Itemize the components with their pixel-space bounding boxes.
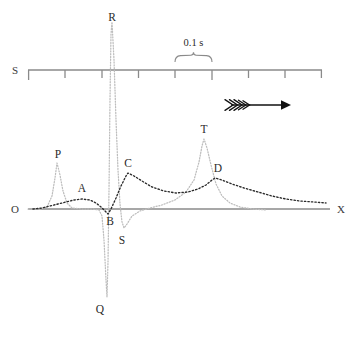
label-p: P xyxy=(55,148,61,160)
label-a: A xyxy=(78,182,87,194)
label-c: C xyxy=(124,157,132,169)
time-scale-group xyxy=(28,70,322,80)
right-arrow-icon xyxy=(225,100,291,111)
label-r: R xyxy=(108,11,116,23)
duration-brace xyxy=(175,52,212,62)
x-axis-label: X xyxy=(337,203,345,215)
scale-axis-label: S xyxy=(12,64,18,76)
arrow-head xyxy=(281,100,291,110)
ecg-diagram-svg: 0.1 s S O X P Q R S T A B C D xyxy=(0,0,350,337)
duration-brace-group xyxy=(175,52,212,62)
origin-label: O xyxy=(11,203,19,215)
duration-label: 0.1 s xyxy=(184,37,204,48)
label-d: D xyxy=(214,162,222,174)
label-b: B xyxy=(106,215,114,227)
ecg-figure-root: 0.1 s S O X P Q R S T A B C D xyxy=(0,0,350,337)
label-s-wave: S xyxy=(119,234,125,246)
label-q: Q xyxy=(96,303,105,315)
ecg-electrical-trace xyxy=(28,22,266,297)
label-t: T xyxy=(200,123,207,135)
